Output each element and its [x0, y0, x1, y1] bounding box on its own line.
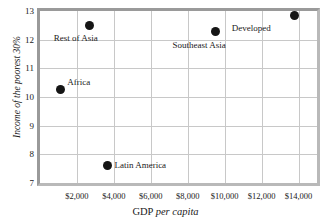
data-point-label: Developed	[232, 23, 271, 33]
x-axis-label: GDP per capita	[0, 206, 331, 217]
data-point-label: Africa	[67, 77, 90, 87]
gridline-horizontal-3	[40, 97, 317, 98]
x-tick-label: $12,000	[248, 192, 276, 201]
x-axis-label-prefix: GDP	[132, 206, 155, 217]
data-point	[85, 21, 94, 30]
y-tick-label: 7	[4, 179, 34, 188]
data-point-label: Rest of Asia	[54, 33, 98, 43]
y-axis-label: Income of the poorest 30%	[12, 17, 22, 157]
x-axis-ticks: $2,000$4,000$6,000$8,000$10,000$12,000$1…	[0, 192, 331, 206]
plot-area: Rest of AsiaSoutheast AsiaDevelopedAfric…	[37, 8, 320, 186]
x-tick-label: $2,000	[65, 192, 88, 201]
plot-inner: Rest of AsiaSoutheast AsiaDevelopedAfric…	[40, 11, 317, 183]
x-tick-label: $8,000	[176, 192, 199, 201]
data-point-label: Southeast Asia	[172, 40, 225, 50]
x-tick-label: $14,000	[285, 192, 313, 201]
x-tick-label: $6,000	[139, 192, 162, 201]
gridline-horizontal-5	[40, 154, 317, 155]
gridline-horizontal-2	[40, 68, 317, 69]
x-axis-label-italic: per capita	[156, 206, 199, 217]
y-tick-label: 13	[4, 7, 34, 16]
scatter-chart: 13121110987 Income of the poorest 30% Re…	[0, 0, 331, 224]
data-point-label: Latin America	[114, 160, 166, 170]
data-point	[56, 85, 65, 94]
x-tick-label: $4,000	[102, 192, 125, 201]
gridline-horizontal-4	[40, 126, 317, 127]
data-point	[211, 27, 220, 36]
x-tick-label: $10,000	[211, 192, 239, 201]
data-point	[103, 161, 112, 170]
